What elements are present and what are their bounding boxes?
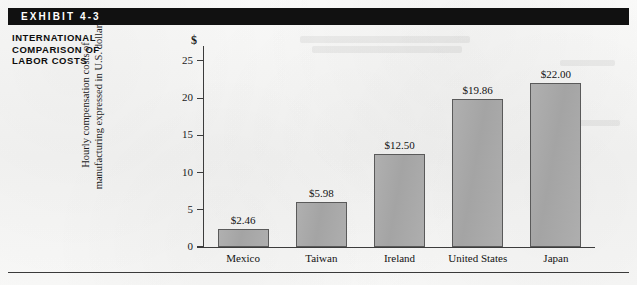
- y-tick-mark: [197, 98, 204, 99]
- y-axis-title-line-1: Hourly compensation costs of: [80, 42, 91, 168]
- y-tick-mark: [197, 172, 204, 173]
- footer-rule: [8, 272, 629, 273]
- category-label: Japan: [511, 252, 601, 264]
- y-tick-mark: [197, 209, 204, 210]
- y-tick-mark: [197, 60, 204, 61]
- y-tick-label: 5: [171, 204, 193, 215]
- bar-united-states: [452, 99, 503, 247]
- y-tick-label: 0: [171, 241, 193, 252]
- y-tick-label: 10: [171, 167, 193, 178]
- y-tick-mark: [197, 135, 204, 136]
- category-label: Mexico: [198, 252, 288, 264]
- bar-value-label: $5.98: [281, 188, 361, 199]
- y-tick-label: 25: [171, 55, 193, 66]
- y-tick-label: 20: [171, 92, 193, 103]
- bar-value-label: $12.50: [360, 140, 440, 151]
- y-axis-title: Hourly compensation costs of manufacturi…: [79, 5, 105, 205]
- y-tick-label: 15: [171, 129, 193, 140]
- currency-symbol: $: [191, 33, 197, 48]
- bar-ireland: [374, 154, 425, 247]
- bar-taiwan: [296, 202, 347, 247]
- exhibit-page: EXHIBIT 4-3 INTERNATIONAL COMPARISON OF …: [0, 0, 637, 285]
- y-axis-title-line-2: manufacturing expressed in U.S. dollars: [93, 21, 104, 190]
- bar-japan: [530, 83, 581, 247]
- bar-value-label: $2.46: [203, 215, 283, 226]
- bar-value-label: $19.86: [438, 85, 518, 96]
- y-tick-mark: [197, 246, 204, 247]
- category-label: Taiwan: [276, 252, 366, 264]
- bar-chart: $ Hourly compensation costs of manufactu…: [0, 0, 637, 285]
- category-label: United States: [433, 252, 523, 264]
- bar-value-label: $22.00: [516, 69, 596, 80]
- bar-mexico: [218, 229, 269, 247]
- x-axis-line: [203, 247, 595, 248]
- category-label: Ireland: [355, 252, 445, 264]
